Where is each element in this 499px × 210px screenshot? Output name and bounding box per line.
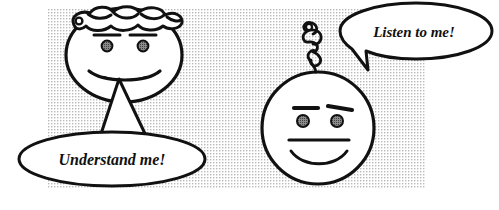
left-eye-left <box>102 41 113 52</box>
right-eye-left <box>297 115 309 127</box>
left-bubble-text: Understand me! <box>58 151 165 168</box>
right-hair-curl-tip <box>306 24 312 30</box>
right-bubble-text: Listen to me! <box>372 24 455 40</box>
left-hair-curl-end <box>76 18 83 25</box>
right-eye-right <box>331 115 343 127</box>
cartoon-scene: Understand me! <box>0 0 499 210</box>
left-bubble[interactable]: Understand me! <box>19 132 205 186</box>
left-eye-right <box>138 41 149 52</box>
cartoon-illustration: Understand me! <box>0 0 499 210</box>
right-head <box>262 72 374 184</box>
